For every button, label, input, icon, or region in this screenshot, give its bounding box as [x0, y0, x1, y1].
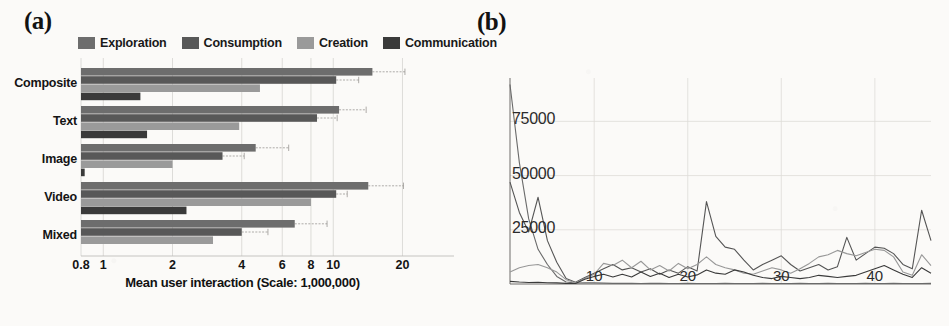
bar-text-exploration[interactable]	[81, 106, 339, 114]
bar-text-consumption[interactable]	[81, 114, 317, 122]
x-axis-tick-label: 20	[679, 267, 696, 284]
panel-a-bar-chart: (a) ExplorationConsumptionCreationCommun…	[0, 0, 475, 326]
y-axis-category-label: Mixed	[43, 228, 77, 242]
bar-mixed-exploration[interactable]	[81, 220, 295, 228]
x-axis-tick-label: 20	[396, 258, 410, 272]
x-axis-tick-label: 10	[586, 267, 603, 284]
bar-video-exploration[interactable]	[81, 182, 368, 190]
bar-text-creation[interactable]	[81, 122, 239, 130]
x-axis-tick-label: 4	[238, 258, 245, 272]
bar-mixed-creation[interactable]	[81, 236, 213, 244]
bar-image-creation[interactable]	[81, 160, 173, 168]
x-axis-tick-label: 8	[307, 258, 314, 272]
bar-composite-consumption[interactable]	[81, 76, 336, 84]
x-axis-tick-label: 1	[100, 258, 107, 272]
x-axis-tick-label: 2	[169, 258, 176, 272]
bar-mixed-consumption[interactable]	[81, 228, 242, 236]
bar-composite-exploration[interactable]	[81, 68, 372, 76]
bar-image-consumption[interactable]	[81, 152, 223, 160]
bar-video-creation[interactable]	[81, 198, 311, 206]
bar-text-communication[interactable]	[81, 131, 147, 139]
line-series-exploration[interactable]	[510, 85, 931, 284]
bar-composite-communication[interactable]	[81, 93, 140, 101]
y-axis-tick-label: 25000	[512, 219, 555, 237]
y-axis-category-label: Video	[44, 190, 77, 204]
y-axis-tick-label: 50000	[512, 165, 555, 183]
bar-image-exploration[interactable]	[81, 144, 256, 152]
bar-image-communication[interactable]	[81, 169, 85, 177]
y-axis-category-label: Composite	[14, 76, 77, 90]
bar-video-consumption[interactable]	[81, 190, 336, 198]
x-axis-tick-label: 30	[773, 267, 790, 284]
x-axis-tick-label: 10	[326, 258, 340, 272]
x-axis-title: Mean user interaction (Scale: 1,000,000)	[80, 275, 405, 290]
bar-video-communication[interactable]	[81, 207, 186, 215]
panel-b-plot-area: 25000500007500010203040	[475, 0, 949, 326]
panel-b-line-chart: (b) User Activity Day/# of Interaction E…	[475, 0, 949, 326]
x-axis-tick-label: 0.8	[72, 258, 89, 272]
y-axis-category-label: Image	[42, 152, 77, 166]
figure-container: (a) ExplorationConsumptionCreationCommun…	[0, 0, 949, 326]
y-axis-category-label: Text	[53, 114, 77, 128]
panel-a-plot-area: CompositeTextImageVideoMixed0.8124681020…	[0, 0, 475, 326]
x-axis-tick-label: 40	[867, 267, 884, 284]
bar-composite-creation[interactable]	[81, 84, 260, 92]
y-axis-tick-label: 75000	[512, 110, 555, 128]
x-axis-tick-label: 6	[279, 258, 286, 272]
